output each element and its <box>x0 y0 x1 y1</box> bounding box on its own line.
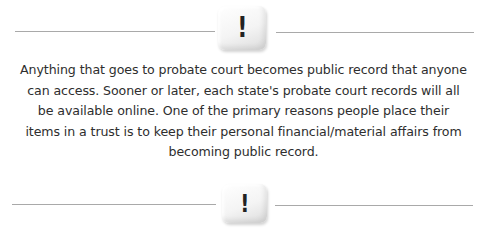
top-divider: ! <box>0 0 487 55</box>
exclamation-die-icon: ! <box>218 6 266 50</box>
exclamation-glyph: ! <box>240 191 249 216</box>
top-divider-right-rule <box>276 32 474 33</box>
bottom-divider: ! <box>0 175 487 230</box>
exclamation-glyph: ! <box>237 14 247 42</box>
bottom-divider-right-rule <box>275 205 473 206</box>
body-paragraph: Anything that goes to probate court beco… <box>20 60 467 163</box>
top-divider-left-rule <box>15 31 215 32</box>
exclamation-die-icon: ! <box>222 184 267 223</box>
bottom-divider-left-rule <box>12 204 216 205</box>
